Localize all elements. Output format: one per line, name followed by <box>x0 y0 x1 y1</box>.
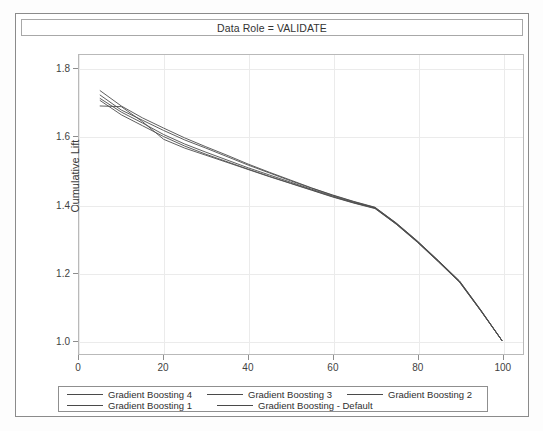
series-lines <box>79 55 523 354</box>
x-tick-label: 100 <box>494 362 511 373</box>
y-tick-mark <box>73 341 78 342</box>
legend-item-label: Gradient Boosting - Default <box>258 400 373 411</box>
x-tick-mark <box>333 355 334 360</box>
panel-title-strip: Data Role = VALIDATE <box>21 19 523 36</box>
legend: Gradient Boosting 4 Gradient Boosting 3 … <box>58 386 488 412</box>
legend-line-icon <box>347 394 383 395</box>
legend-item[interactable]: Gradient Boosting 2 <box>347 389 487 400</box>
legend-row: Gradient Boosting 4 Gradient Boosting 3 … <box>59 389 487 400</box>
series-line <box>100 106 502 340</box>
series-line <box>100 91 502 341</box>
y-tick-label: 1.4 <box>32 199 70 210</box>
x-tick-label: 80 <box>412 362 423 373</box>
y-tick-label: 1.6 <box>32 131 70 142</box>
legend-item[interactable]: Gradient Boosting 3 <box>207 389 347 400</box>
y-tick-mark <box>73 273 78 274</box>
chart-body: 1.01.21.41.61.8 020406080100 Cumulative … <box>21 38 523 368</box>
legend-line-icon <box>207 394 243 395</box>
legend-line-icon <box>67 394 103 395</box>
x-tick-mark <box>78 355 79 360</box>
legend-item-label: Gradient Boosting 2 <box>388 389 472 400</box>
y-tick-mark <box>73 68 78 69</box>
legend-item-label: Gradient Boosting 3 <box>248 389 332 400</box>
x-tick-mark <box>418 355 419 360</box>
x-tick-mark <box>163 355 164 360</box>
y-tick-label: 1.8 <box>32 62 70 73</box>
legend-item-label: Gradient Boosting 1 <box>108 400 192 411</box>
legend-item-label: Gradient Boosting 4 <box>108 389 192 400</box>
x-tick-mark <box>248 355 249 360</box>
plot-area <box>78 54 524 355</box>
series-line <box>100 95 502 340</box>
legend-line-icon <box>67 405 103 406</box>
chart-page: Data Role = VALIDATE 1.01.21.41.61.8 020… <box>0 0 543 431</box>
legend-item[interactable]: Gradient Boosting 4 <box>67 389 207 400</box>
legend-item[interactable]: Gradient Boosting 1 <box>67 400 217 411</box>
x-tick-label: 40 <box>242 362 253 373</box>
x-tick-mark <box>503 355 504 360</box>
y-tick-label: 1.0 <box>32 336 70 347</box>
chart-outer-frame: Data Role = VALIDATE 1.01.21.41.61.8 020… <box>15 13 529 417</box>
legend-item[interactable]: Gradient Boosting - Default <box>217 400 367 411</box>
legend-row: Gradient Boosting 1 Gradient Boosting - … <box>59 400 487 411</box>
x-tick-label: 0 <box>75 362 81 373</box>
panel-title: Data Role = VALIDATE <box>217 22 327 34</box>
x-tick-label: 20 <box>157 362 168 373</box>
y-axis-title: Cumulative Lift <box>69 116 81 236</box>
y-tick-label: 1.2 <box>32 267 70 278</box>
legend-line-icon <box>217 405 253 406</box>
x-tick-label: 60 <box>327 362 338 373</box>
